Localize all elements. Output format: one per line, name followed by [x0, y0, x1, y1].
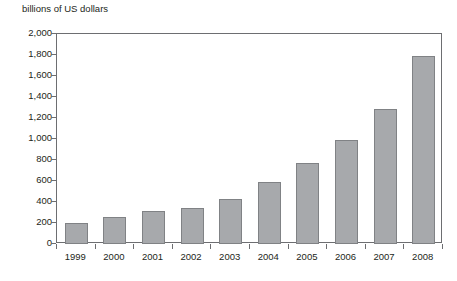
bar-2007	[374, 109, 397, 244]
x-axis-tick-label: 2001	[142, 251, 163, 262]
bar-2005	[296, 163, 319, 244]
x-axis-tick-mark	[288, 244, 289, 249]
y-axis-tick-label: 1,200	[2, 112, 52, 122]
x-axis-tick-mark	[95, 244, 96, 249]
bar-chart-figure: billions of US dollars 2,0001,8001,6001,…	[0, 0, 457, 281]
y-axis-tick-label: 0	[2, 238, 52, 248]
y-axis-tick-label: 2,000	[2, 28, 52, 38]
y-axis-tick-label: 400	[2, 196, 52, 206]
bar-2008	[412, 56, 435, 244]
x-axis-tick-label: 2008	[412, 251, 433, 262]
y-axis-tick-mark	[51, 201, 56, 202]
bar-2000	[103, 217, 126, 244]
x-axis-tick-mark	[56, 244, 57, 249]
x-axis-tick-label: 2007	[374, 251, 395, 262]
x-axis-tick-mark	[210, 244, 211, 249]
y-axis-tick-label: 200	[2, 217, 52, 227]
y-axis-tick-mark	[51, 159, 56, 160]
x-axis-tick-mark	[365, 244, 366, 249]
y-axis-tick-mark	[51, 96, 56, 97]
y-axis-tick-label: 600	[2, 175, 52, 185]
bar-1999	[65, 223, 88, 244]
x-axis-tick-label: 2002	[181, 251, 202, 262]
bar-2003	[219, 199, 242, 244]
x-axis-tick-label: 2003	[219, 251, 240, 262]
x-axis-tick-mark	[403, 244, 404, 249]
x-axis-tick-label: 2005	[296, 251, 317, 262]
y-axis-tick-label: 800	[2, 154, 52, 164]
x-axis-tick-label: 2004	[258, 251, 279, 262]
bar-2006	[335, 140, 358, 244]
bar-2004	[258, 182, 281, 244]
x-axis-tick-label: 2000	[103, 251, 124, 262]
y-axis-tick-mark	[51, 117, 56, 118]
x-axis-tick-label: 1999	[65, 251, 86, 262]
y-axis-tick-mark	[51, 75, 56, 76]
bar-2002	[181, 208, 204, 244]
y-axis-tick-mark	[51, 138, 56, 139]
x-axis-tick-mark	[172, 244, 173, 249]
x-axis-tick-mark	[326, 244, 327, 249]
y-axis-tick-mark	[51, 180, 56, 181]
x-axis-tick-mark	[133, 244, 134, 249]
y-axis-tick-label: 1,400	[2, 91, 52, 101]
plot-area	[56, 33, 442, 243]
y-axis-tick-label: 1,800	[2, 49, 52, 59]
y-axis-tick-mark	[51, 33, 56, 34]
y-axis-tick-label: 1,600	[2, 70, 52, 80]
x-axis-tick-label: 2006	[335, 251, 356, 262]
bar-2001	[142, 211, 165, 244]
y-axis: 2,0001,8001,6001,4001,2001,0008006004002…	[0, 0, 52, 281]
y-axis-tick-label: 1,000	[2, 133, 52, 143]
y-axis-tick-mark	[51, 222, 56, 223]
x-axis-tick-mark	[442, 244, 443, 249]
y-axis-tick-mark	[51, 54, 56, 55]
x-axis-tick-mark	[249, 244, 250, 249]
